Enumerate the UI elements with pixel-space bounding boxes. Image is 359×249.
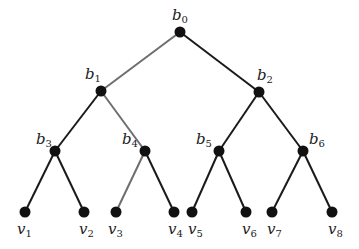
label-v8: v8 [328,220,343,239]
label-v4: v4 [168,220,183,239]
edge-b0-b1 [101,32,180,91]
binary-tree-diagram: b0b1b2b3b4b5b6v1v2v3v4v5v6v7v8 [0,0,359,249]
node-b0 [175,27,186,38]
node-b5 [214,146,225,157]
node-b6 [298,146,309,157]
label-v3: v3 [108,220,123,239]
node-v3 [111,207,122,218]
edge-b2-b6 [259,92,303,151]
edge-b1-b3 [55,91,101,151]
edge-b5-v5 [192,151,219,212]
node-v8 [327,207,338,218]
label-v5: v5 [188,220,203,239]
label-v6: v6 [242,220,257,239]
edge-b4-v3 [116,151,145,212]
edge-b3-v1 [25,151,55,212]
node-v6 [241,207,252,218]
edge-b3-v2 [55,151,84,212]
edge-b0-b2 [180,32,259,92]
edge-b4-v4 [145,151,174,212]
node-labels: b0b1b2b3b4b5b6v1v2v3v4v5v6v7v8 [17,6,343,239]
tree-nodes [20,27,338,218]
node-v1 [20,207,31,218]
node-v7 [267,207,278,218]
node-b4 [140,146,151,157]
node-b1 [96,86,107,97]
node-b2 [254,87,265,98]
edge-b2-b5 [219,92,259,151]
edge-b6-v7 [272,151,303,212]
label-b0: b0 [172,6,188,25]
label-v2: v2 [79,220,94,239]
label-b2: b2 [257,66,273,85]
label-b6: b6 [309,130,325,149]
node-v4 [169,207,180,218]
label-v1: v1 [17,220,32,239]
edge-b5-v6 [219,151,246,212]
tree-edges [25,32,332,212]
label-b5: b5 [196,130,212,149]
node-v5 [187,207,198,218]
label-b3: b3 [36,130,52,149]
label-b4: b4 [122,130,138,149]
edge-b6-v8 [303,151,332,212]
label-v7: v7 [267,220,282,239]
node-v2 [79,207,90,218]
label-b1: b1 [85,65,101,84]
